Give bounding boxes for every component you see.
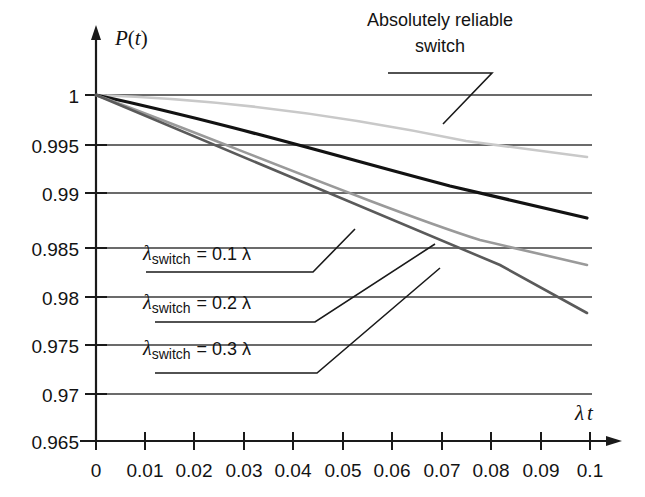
annotation-absolutely-reliable-switch: Absolutely reliable switch — [367, 10, 513, 124]
y-axis-title-p: P — [114, 26, 128, 50]
leader-line-reliable — [388, 73, 492, 124]
x-axis-title: λt — [574, 401, 594, 425]
annotation-sw3-rest: = 0.3 λ — [197, 339, 252, 359]
x-tick-labels: 0 0.01 0.02 0.03 0.04 0.05 0.06 0.07 0.0… — [91, 460, 604, 481]
x-tick-label-004: 0.04 — [275, 460, 312, 481]
y-axis-title-paren-l: ( — [128, 26, 135, 50]
x-tick-label-001: 0.01 — [127, 460, 164, 481]
y-axis-title-paren-r: ) — [141, 26, 148, 50]
annotation-sw3-subscript: switch — [152, 346, 191, 362]
annotation-sw3-lambda: λ — [142, 337, 152, 359]
y-tick-label-0985: 0.985 — [31, 239, 79, 260]
y-tick-label-097: 0.97 — [42, 385, 79, 406]
y-tick-label-0965: 0.965 — [31, 432, 79, 453]
annotation-reliable-line2: switch — [415, 36, 465, 56]
y-tick-label-099: 0.99 — [42, 184, 79, 205]
series-lambda-switch-02 — [96, 95, 587, 265]
series-lambda-switch-03 — [96, 95, 587, 313]
annotation-sw1-text: λswitch= 0.1 λ — [142, 242, 251, 267]
x-tick-label-006: 0.06 — [374, 460, 411, 481]
annotation-sw1-subscript: switch — [152, 251, 191, 267]
annotation-reliable-line1: Absolutely reliable — [367, 10, 513, 30]
annotation-sw2-lambda: λ — [142, 291, 152, 313]
annotation-lambda-switch-01: λswitch= 0.1 λ — [142, 229, 355, 272]
x-tick-label-008: 0.08 — [473, 460, 510, 481]
x-axis-title-lambda: λ — [574, 401, 584, 425]
svg-text:λt: λt — [574, 401, 594, 425]
y-tick-labels: 1 0.995 0.99 0.985 0.98 0.975 0.97 0.965 — [31, 86, 79, 453]
x-tick-label-0: 0 — [91, 460, 102, 481]
annotation-sw2-text: λswitch= 0.2 λ — [142, 291, 251, 316]
x-tick-label-01: 0.1 — [577, 460, 603, 481]
x-axis-title-t: t — [587, 401, 594, 425]
annotation-lambda-switch-03: λswitch= 0.3 λ — [142, 268, 440, 373]
annotation-sw3-text: λswitch= 0.3 λ — [142, 337, 251, 362]
annotation-sw1-lambda: λ — [142, 242, 152, 264]
chart-svg: 1 0.995 0.99 0.985 0.98 0.975 0.97 0.965… — [0, 0, 645, 497]
x-tick-label-002: 0.02 — [176, 460, 213, 481]
y-tick-label-0975: 0.975 — [31, 336, 79, 357]
svg-text:P(t): P(t) — [114, 26, 148, 50]
y-tick-label-1: 1 — [68, 86, 79, 107]
x-tick-label-009: 0.09 — [523, 460, 560, 481]
chart-figure: 1 0.995 0.99 0.985 0.98 0.975 0.97 0.965… — [0, 0, 645, 497]
y-tick-label-0995: 0.995 — [31, 136, 79, 157]
y-axis — [91, 25, 101, 441]
x-tick-label-005: 0.05 — [325, 460, 362, 481]
x-tick-label-003: 0.03 — [226, 460, 263, 481]
annotation-sw2-subscript: switch — [152, 300, 191, 316]
y-tick-label-098: 0.98 — [42, 288, 79, 309]
x-tick-label-007: 0.07 — [424, 460, 461, 481]
y-axis-title: P(t) — [114, 26, 148, 50]
annotation-sw2-rest: = 0.2 λ — [197, 293, 252, 313]
annotation-sw1-rest: = 0.1 λ — [197, 244, 252, 264]
